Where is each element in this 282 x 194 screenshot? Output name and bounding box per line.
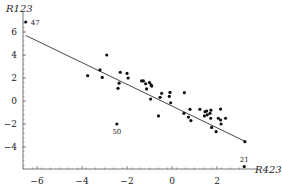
data-point xyxy=(24,20,27,23)
point-label: 47 xyxy=(31,19,40,27)
data-point xyxy=(158,96,161,99)
y-tick-label: 4 xyxy=(11,50,17,60)
data-point xyxy=(149,97,152,100)
data-point xyxy=(142,79,145,82)
data-point xyxy=(144,82,147,85)
data-point xyxy=(169,101,172,104)
data-point xyxy=(160,92,163,95)
data-point xyxy=(157,114,160,117)
data-point xyxy=(203,114,206,117)
data-point xyxy=(168,95,171,98)
data-point xyxy=(198,108,201,111)
data-point xyxy=(206,113,209,116)
data-point xyxy=(188,108,191,111)
data-point xyxy=(210,126,213,129)
point-label: 21 xyxy=(240,156,249,164)
data-point xyxy=(168,91,171,94)
data-point xyxy=(145,87,148,90)
data-point xyxy=(208,112,211,115)
data-point xyxy=(183,91,186,94)
data-point xyxy=(219,118,222,121)
data-point xyxy=(243,165,246,168)
data-point xyxy=(219,122,222,125)
regression-line xyxy=(26,35,245,141)
y-axis-title: R123 xyxy=(5,3,33,14)
data-point xyxy=(116,87,119,90)
data-point xyxy=(219,107,222,110)
data-points xyxy=(24,20,246,168)
axis-ticks: −6−4−202−4−20246 xyxy=(4,23,240,186)
data-point xyxy=(215,130,218,133)
data-point xyxy=(86,74,89,77)
x-axis-title: R423 xyxy=(254,164,282,175)
data-point xyxy=(98,68,101,71)
data-point xyxy=(119,71,122,74)
x-tick-label: 2 xyxy=(214,176,220,186)
data-point xyxy=(125,72,128,75)
data-point xyxy=(187,116,190,119)
data-point xyxy=(127,76,130,79)
data-point xyxy=(209,109,212,112)
data-point xyxy=(209,117,212,120)
data-point xyxy=(189,119,192,122)
y-tick-label: 2 xyxy=(11,73,17,83)
scatter-chart: −6−4−202−4−20246 475021 R123 R423 xyxy=(0,0,282,194)
data-point xyxy=(150,84,153,87)
data-point xyxy=(182,112,185,115)
x-tick-label: −6 xyxy=(30,176,44,186)
data-point xyxy=(224,117,227,120)
x-tick-label: −2 xyxy=(120,176,133,186)
data-point xyxy=(115,122,118,125)
data-point xyxy=(243,140,246,143)
y-tick-label: −4 xyxy=(4,142,18,152)
x-tick-label: 0 xyxy=(169,176,175,186)
data-point xyxy=(105,53,108,56)
data-point xyxy=(205,109,208,112)
point-annotations: 475021 xyxy=(31,19,249,164)
data-point xyxy=(118,82,121,85)
point-label: 50 xyxy=(112,128,121,136)
data-point xyxy=(101,76,104,79)
y-tick-label: −2 xyxy=(4,119,17,129)
x-tick-label: −4 xyxy=(75,176,89,186)
y-tick-label: 0 xyxy=(11,96,17,106)
y-tick-label: 6 xyxy=(11,27,17,37)
